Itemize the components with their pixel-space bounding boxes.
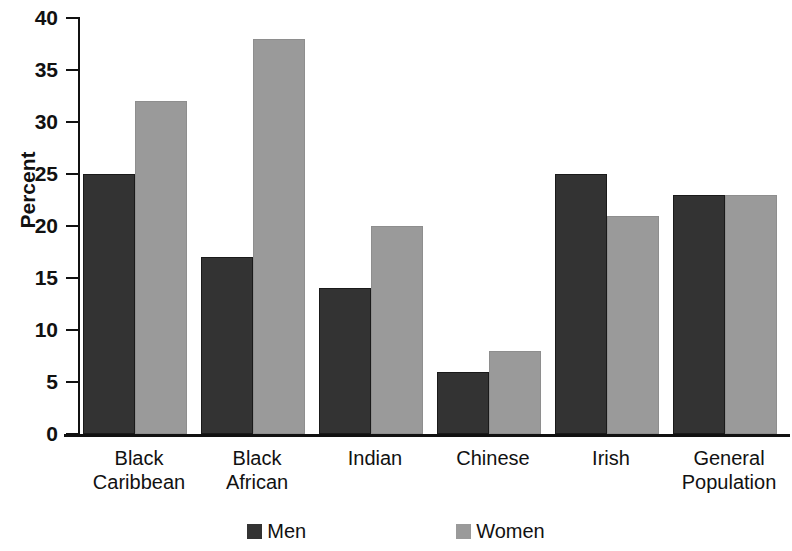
legend-swatch-women-icon	[456, 524, 471, 539]
y-tick-label: 20	[4, 215, 58, 236]
bar-men-indian	[319, 288, 371, 434]
bar-women-chinese	[489, 351, 541, 434]
bar-women-irish	[607, 216, 659, 434]
x-axis-label-line2: Population	[649, 470, 792, 494]
x-axis-label-line1: General	[693, 447, 764, 469]
chart-legend: MenWomen	[0, 520, 792, 543]
y-tick-label: 25	[4, 163, 58, 184]
y-tick-label: 40	[4, 7, 58, 28]
bar-men-black-caribbean	[83, 174, 135, 434]
y-tick-label: 15	[4, 267, 58, 288]
bar-men-irish	[555, 174, 607, 434]
x-axis-label-line1: Chinese	[456, 447, 529, 469]
x-axis-line	[64, 434, 790, 437]
legend-item-women: Women	[456, 520, 545, 543]
plot-area	[78, 18, 788, 434]
y-tick-label: 10	[4, 319, 58, 340]
x-axis-label-line1: Black	[233, 447, 282, 469]
legend-label: Men	[267, 520, 306, 543]
x-axis-label-line1: Irish	[592, 447, 630, 469]
bar-men-chinese	[437, 372, 489, 434]
bar-women-general-population	[725, 195, 777, 434]
y-tick-label: 30	[4, 111, 58, 132]
y-tick-label: 0	[4, 423, 58, 444]
bar-women-black-caribbean	[135, 101, 187, 434]
x-axis-label-general-population: GeneralPopulation	[649, 446, 792, 494]
bar-men-black-african	[201, 257, 253, 434]
x-axis-label-line1: Black	[115, 447, 164, 469]
bar-men-general-population	[673, 195, 725, 434]
legend-swatch-men-icon	[247, 524, 262, 539]
x-axis-label-line1: Indian	[348, 447, 403, 469]
bar-women-indian	[371, 226, 423, 434]
y-tick-label: 35	[4, 59, 58, 80]
bar-women-black-african	[253, 39, 305, 434]
legend-label: Women	[476, 520, 545, 543]
bar-chart: Percent 0510152025303540 BlackCaribbeanB…	[0, 0, 792, 551]
x-axis-label-line2: African	[177, 470, 337, 494]
legend-item-men: Men	[247, 520, 306, 543]
y-tick-label: 5	[4, 371, 58, 392]
